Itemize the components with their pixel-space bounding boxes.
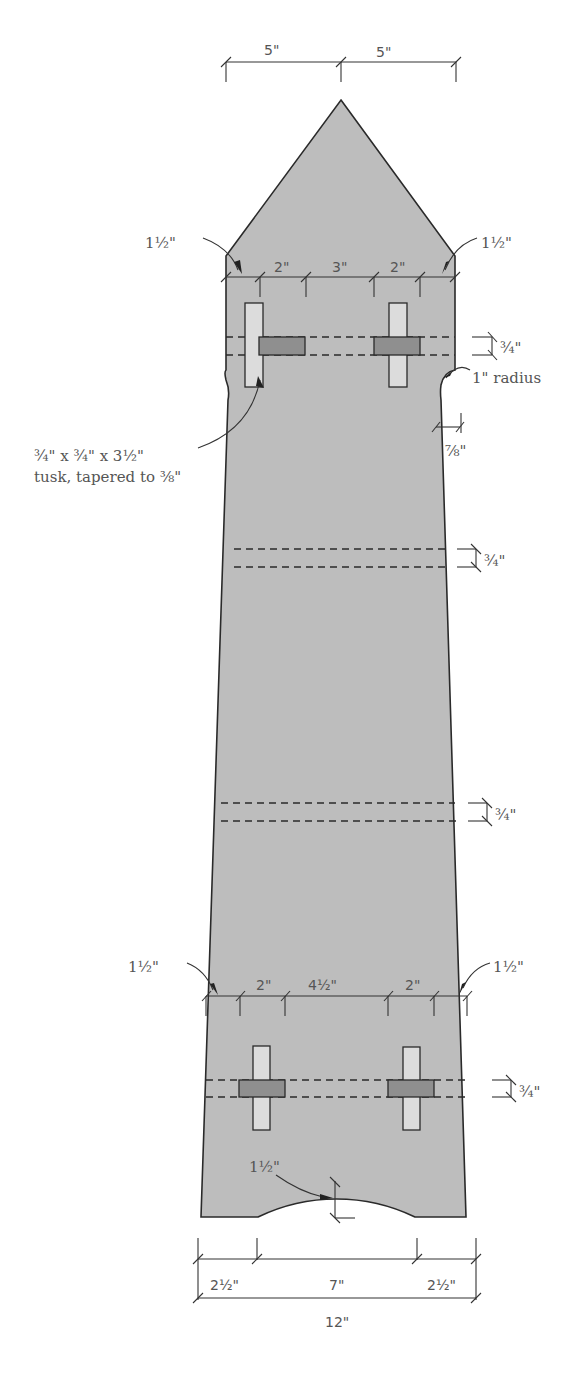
upper-right-tusk: [374, 337, 420, 355]
svg-text:⅞": ⅞": [445, 442, 466, 460]
leg-drawing: 5" 5" 2" 3" 2" 1½" 1½" ¾" 1" rad: [0, 0, 587, 1377]
dim-lower-left: 2": [256, 977, 271, 993]
dim-top-right: 5": [376, 44, 391, 60]
svg-text:1½": 1½": [128, 958, 159, 976]
dim-upper-left: 2": [274, 259, 289, 275]
svg-text:1½": 1½": [145, 234, 176, 252]
dim-bottom-right: 2½": [427, 1277, 456, 1293]
dim-bottom-total: 12": [325, 1314, 349, 1330]
svg-text:1½": 1½": [493, 958, 524, 976]
bottom-dimension: 2½" 7" 2½" 12": [193, 1238, 481, 1330]
dim-upper-right: 2": [390, 259, 405, 275]
dim-lower-mid: 4½": [308, 977, 337, 993]
upper-stretcher-dim: ¾": [472, 332, 521, 360]
svg-text:¾": ¾": [519, 1083, 540, 1101]
dim-lower-right: 2": [405, 977, 420, 993]
upper-left-tusk: [259, 337, 305, 355]
svg-text:1½": 1½": [481, 234, 512, 252]
svg-text:¾": ¾": [484, 552, 505, 570]
top-dimension: 5" 5": [221, 42, 461, 82]
lower-left-tusk: [239, 1080, 285, 1097]
svg-text:1½": 1½": [249, 1158, 280, 1176]
radius-callout: 1" radius: [443, 367, 541, 387]
dim-upper-mid: 3": [332, 259, 347, 275]
dim-top-left: 5": [264, 42, 279, 58]
lower-chamfer-right-callout: 1½": [459, 958, 524, 995]
svg-text:tusk, tapered to ⅜": tusk, tapered to ⅜": [34, 468, 181, 486]
lower-chamfer-left-callout: 1½": [128, 958, 218, 995]
lower-right-tusk: [388, 1080, 434, 1097]
mid-stretcher-1-dim: ¾": [457, 544, 505, 572]
dim-bottom-mid: 7": [329, 1277, 344, 1293]
svg-text:¾": ¾": [495, 806, 516, 824]
dim-bottom-left: 2½": [210, 1277, 239, 1293]
svg-text:1" radius: 1" radius: [472, 369, 541, 387]
svg-text:¾" x ¾" x 3½": ¾" x ¾" x 3½": [34, 447, 144, 465]
lower-stretcher-dim: ¾": [492, 1075, 540, 1102]
mid-stretcher-2-dim: ¾": [468, 798, 516, 826]
svg-text:¾": ¾": [500, 339, 521, 357]
